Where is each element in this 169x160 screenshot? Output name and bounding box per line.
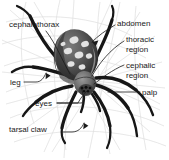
label-cephalic-region: cephalic region [126,61,155,80]
label-tarsal-claw: tarsal claw [9,125,47,134]
label-thoracic-line2: region [126,45,154,55]
label-thoracic-line1: thoracic [126,35,154,45]
label-leg: leg [10,78,21,87]
spider-anatomy-diagram: cephalothorax abdomen thoracic region ce… [0,0,169,160]
label-cephalic-line1: cephalic [126,61,155,71]
label-eyes: eyes [35,99,52,108]
label-palp: palp [142,88,157,97]
label-cephalic-line2: region [126,71,155,81]
label-abdomen: abdomen [117,19,150,28]
label-thoracic-region: thoracic region [126,35,154,54]
label-cephalothorax: cephalothorax [9,20,59,29]
